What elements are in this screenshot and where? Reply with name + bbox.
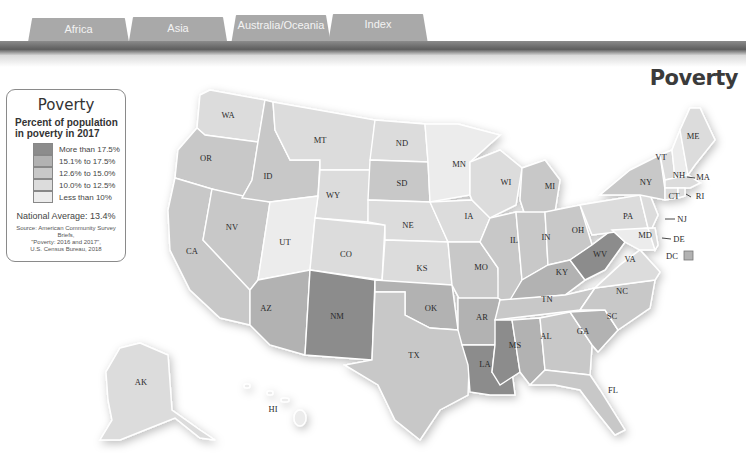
state-label-in: IN xyxy=(542,232,551,242)
state-label-ar: AR xyxy=(476,312,488,322)
state-label-oh: OH xyxy=(572,225,584,235)
state-label-sc: SC xyxy=(607,311,618,321)
state-label-va: VA xyxy=(624,254,636,264)
state-label-ne: NE xyxy=(402,220,413,230)
state-label-dc: DC xyxy=(666,251,678,261)
legend-classes: More than 17.5% 15.1% to 17.5% 12.6% to … xyxy=(33,143,121,203)
state-label-nj: NJ xyxy=(677,214,687,224)
national-average: National Average: 13.4% xyxy=(11,211,121,221)
legend-class-4: Less than 10% xyxy=(33,191,121,203)
state-label-or: OR xyxy=(200,153,212,163)
legend-label: More than 17.5% xyxy=(59,145,120,154)
state-label-de: DE xyxy=(673,234,684,244)
legend-label: 10.0% to 12.5% xyxy=(59,181,115,190)
state-label-mn: MN xyxy=(452,159,466,169)
legend-label: Less than 10% xyxy=(59,193,112,202)
state-label-ms: MS xyxy=(509,340,522,350)
state-label-ia: IA xyxy=(465,211,475,221)
state-label-wv: WV xyxy=(593,249,608,259)
state-label-ny: NY xyxy=(640,177,652,187)
state-label-ky: KY xyxy=(556,267,568,277)
legend-class-0: More than 17.5% xyxy=(33,143,121,155)
state-label-il: IL xyxy=(510,235,518,245)
state-label-al: AL xyxy=(540,331,551,341)
callout-ri xyxy=(686,194,691,197)
state-label-ak: AK xyxy=(135,377,148,387)
state-label-wy: WY xyxy=(326,190,340,200)
legend-swatch xyxy=(33,155,53,167)
legend-title: Poverty xyxy=(11,96,121,114)
state-label-wi: WI xyxy=(501,177,512,187)
legend-swatch xyxy=(33,143,53,155)
source-line2: "Poverty: 2016 and 2017", xyxy=(11,239,121,246)
state-label-tx: TX xyxy=(408,350,419,360)
legend-subtitle-line2: in poverty in 2017 xyxy=(15,128,121,139)
legend-label: 15.1% to 17.5% xyxy=(59,157,115,166)
state-label-fl: FL xyxy=(608,385,618,395)
legend-swatch xyxy=(33,179,53,191)
state-az[interactable] xyxy=(250,270,310,355)
state-label-vt: VT xyxy=(655,152,667,162)
state-fl[interactable] xyxy=(530,370,625,435)
state-label-ri: RI xyxy=(696,191,705,201)
legend-class-1: 15.1% to 17.5% xyxy=(33,155,121,167)
state-label-nh: NH xyxy=(673,170,685,180)
state-label-ma: MA xyxy=(696,172,711,182)
state-label-wa: WA xyxy=(221,110,235,120)
state-label-ca: CA xyxy=(186,246,199,256)
source-line1: Source: American Community Survey Briefs… xyxy=(11,225,121,239)
state-label-co: CO xyxy=(340,249,352,259)
state-label-tn: TN xyxy=(541,294,552,304)
callout-de xyxy=(662,238,671,239)
source-line3: U.S. Census Bureau, 2018 xyxy=(11,246,121,253)
state-label-ct: CT xyxy=(669,191,681,201)
state-label-mo: MO xyxy=(474,262,488,272)
legend-subtitle-line1: Percent of population xyxy=(15,117,121,128)
state-label-ut: UT xyxy=(279,237,291,247)
map-legend: Poverty Percent of population in poverty… xyxy=(6,89,126,262)
state-label-pa: PA xyxy=(623,211,634,221)
state-wy[interactable] xyxy=(315,170,370,222)
state-label-nc: NC xyxy=(616,286,628,296)
state-label-sd: SD xyxy=(397,178,408,188)
legend-subtitle: Percent of population in poverty in 2017 xyxy=(15,117,121,139)
legend-label: 12.6% to 15.0% xyxy=(59,169,115,178)
state-label-ks: KS xyxy=(417,263,428,273)
state-label-nv: NV xyxy=(226,222,239,232)
state-label-mt: MT xyxy=(314,135,328,145)
source-citation: Source: American Community Survey Briefs… xyxy=(11,225,121,253)
state-label-az: AZ xyxy=(260,303,271,313)
state-label-nd: ND xyxy=(396,138,408,148)
state-label-md: MD xyxy=(638,230,652,240)
legend-swatch xyxy=(33,167,53,179)
legend-class-2: 12.6% to 15.0% xyxy=(33,167,121,179)
state-label-mi: MI xyxy=(545,181,556,191)
state-label-ok: OK xyxy=(425,303,438,313)
state-label-la: LA xyxy=(479,359,491,369)
state-label-hi: HI xyxy=(269,404,278,414)
state-label-id: ID xyxy=(264,171,273,181)
state-ak[interactable] xyxy=(100,343,215,440)
state-label-ga: GA xyxy=(577,326,590,336)
state-label-me: ME xyxy=(687,131,700,141)
legend-swatch xyxy=(33,191,53,203)
state-label-nm: NM xyxy=(330,311,344,321)
state-dc-swatch[interactable] xyxy=(684,251,693,260)
legend-class-3: 10.0% to 12.5% xyxy=(33,179,121,191)
